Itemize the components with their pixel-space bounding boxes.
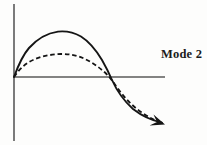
mode-shape-figure: Mode 2 xyxy=(0,0,207,145)
mode-curve-dashed xyxy=(14,54,162,123)
mode-shape-diagram xyxy=(0,0,207,145)
mode-label: Mode 2 xyxy=(161,47,202,61)
